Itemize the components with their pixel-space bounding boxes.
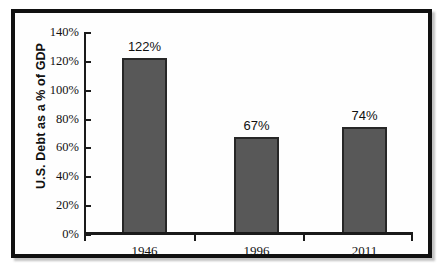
- x-axis-tick-label-1946: 1946: [100, 243, 190, 259]
- y-axis-tick-label: 40%: [23, 169, 79, 184]
- x-axis-tick: [411, 235, 413, 241]
- y-axis-tick: [86, 205, 91, 207]
- y-axis-tick: [86, 147, 91, 149]
- y-axis-tick-label: 100%: [23, 82, 79, 97]
- x-axis-tick-label-2011: 2011: [320, 243, 410, 259]
- y-axis-tick: [86, 32, 91, 34]
- bar-1996[interactable]: [234, 137, 279, 234]
- y-axis-tick-label: 80%: [23, 111, 79, 126]
- y-axis-tick-label: 120%: [23, 53, 79, 68]
- y-axis-tick-label: 60%: [23, 140, 79, 155]
- y-axis-tick: [86, 119, 91, 121]
- plot-area: U.S. Debt as a % of GDP 140% 120% 100% 8…: [15, 13, 428, 254]
- x-axis-tick: [84, 235, 86, 241]
- chart-figure: U.S. Debt as a % of GDP 140% 120% 100% 8…: [0, 0, 447, 275]
- y-axis-tick-label: 140%: [23, 25, 79, 40]
- x-axis-line: [84, 232, 413, 235]
- y-axis-tick-label: 0%: [23, 227, 79, 242]
- x-axis-tick-label-1996: 1996: [212, 243, 302, 259]
- y-axis-tick: [86, 176, 91, 178]
- bar-value-label-2011: 74%: [320, 108, 410, 123]
- x-axis-tick: [303, 235, 305, 241]
- bar-value-label-1996: 67%: [212, 118, 302, 133]
- x-axis-tick: [194, 235, 196, 241]
- y-axis-tick-label: 20%: [23, 198, 79, 213]
- bar-value-label-1946: 122%: [100, 39, 190, 54]
- y-axis-tick: [86, 90, 91, 92]
- bar-1946[interactable]: [122, 58, 167, 234]
- chart-frame-border: U.S. Debt as a % of GDP 140% 120% 100% 8…: [11, 9, 432, 258]
- bar-2011[interactable]: [342, 127, 387, 234]
- y-axis-tick: [86, 61, 91, 63]
